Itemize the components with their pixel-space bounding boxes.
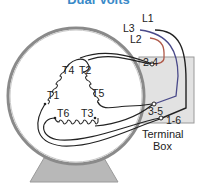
label-t4: T4 xyxy=(62,64,74,76)
label-t1: T1 xyxy=(47,89,59,101)
label-t2: T2 xyxy=(79,64,91,76)
label-1-6: 1-6 xyxy=(166,114,181,126)
label-t3: T3 xyxy=(81,107,93,119)
terminal-box-label-line2: Box xyxy=(153,140,172,152)
label-l2: L2 xyxy=(130,33,142,45)
terminal-box-label-line1: Terminal xyxy=(142,128,184,140)
label-3-5: 3-5 xyxy=(148,105,163,117)
motor-housing xyxy=(8,28,144,164)
label-2-4: 2-4 xyxy=(143,56,158,68)
label-t5: T5 xyxy=(92,87,104,99)
label-t6: T6 xyxy=(57,107,69,119)
label-l1: L1 xyxy=(142,12,154,24)
motor-wiring-diagram: L1 L3 L2 T4 T2 T1 T5 T6 T3 2-4 3-5 1-6 T… xyxy=(0,0,197,184)
